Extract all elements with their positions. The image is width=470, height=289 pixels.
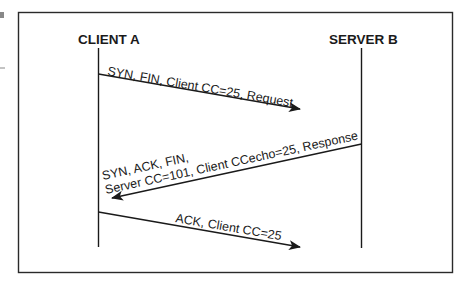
participant-client-label: CLIENT A	[78, 32, 140, 47]
message-label-3: ACK, Client CC=25	[174, 211, 282, 243]
participant-server-label: SERVER B	[329, 32, 398, 47]
message-label-1: SYN, FIN, Client CC=25, Request	[106, 64, 294, 110]
sequence-diagram: CLIENT A SERVER B SYN, FIN, Client CC=25…	[0, 0, 470, 289]
margin-mark	[0, 12, 4, 18]
